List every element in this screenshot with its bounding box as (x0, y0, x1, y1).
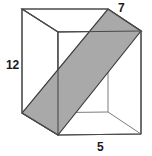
geometry-figure: 12 7 5 (0, 0, 152, 156)
dimension-label-depth: 7 (118, 2, 124, 14)
dimension-label-height: 12 (6, 59, 19, 71)
dimension-label-width: 5 (97, 141, 103, 153)
rectangular-prism-drawing (0, 0, 152, 156)
